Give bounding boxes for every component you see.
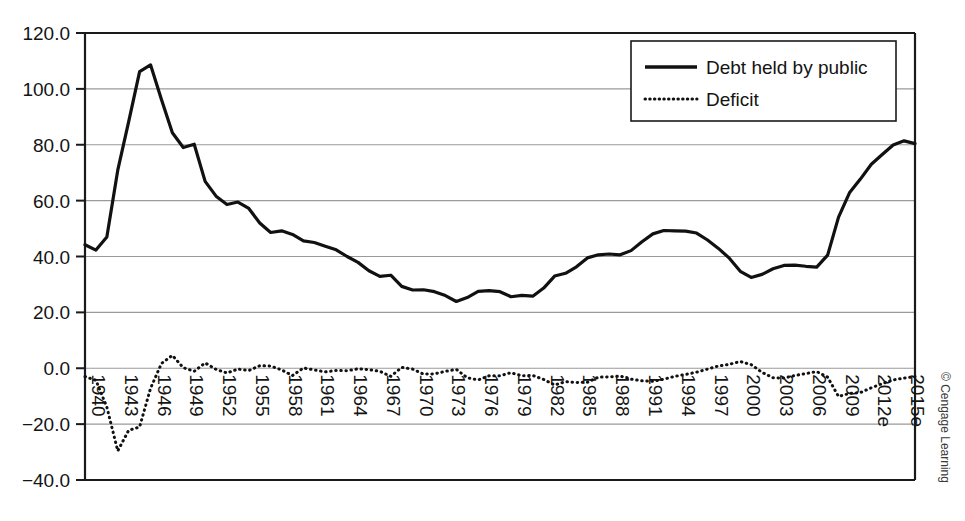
y-axis-ticks: −40.0−20.00.020.040.060.080.0100.0120.0	[22, 23, 85, 491]
x-tick-label: 1958	[285, 374, 306, 416]
x-axis-ticks: 1940194319461949195219551958196119641967…	[88, 374, 928, 427]
x-tick-label: 1940	[88, 374, 109, 416]
x-tick-label: 1943	[121, 374, 142, 416]
x-tick-label: 1997	[711, 374, 732, 416]
y-tick-label: 120.0	[22, 23, 70, 44]
x-tick-label: 2009	[842, 374, 863, 416]
legend-box	[631, 41, 896, 121]
x-tick-label: 1955	[252, 374, 273, 416]
x-tick-label: 1973	[448, 374, 469, 416]
y-tick-label: 20.0	[33, 302, 70, 323]
y-tick-label: 40.0	[33, 247, 70, 268]
x-tick-label: 1946	[154, 374, 175, 416]
y-tick-label: 100.0	[22, 79, 70, 100]
x-tick-label: 2015e	[907, 374, 928, 427]
x-tick-label: 1952	[219, 374, 240, 416]
x-tick-label: 1985	[579, 374, 600, 416]
x-tick-label: 2006	[809, 374, 830, 416]
copyright-credit: © Cengage Learning	[938, 372, 952, 483]
x-tick-label: 1967	[383, 374, 404, 416]
y-tick-label: 0.0	[44, 358, 70, 379]
x-tick-label: 1976	[481, 374, 502, 416]
y-tick-label: −40.0	[22, 470, 70, 491]
debt-deficit-line-chart: −40.0−20.00.020.040.060.080.0100.0120.0 …	[0, 0, 965, 521]
x-tick-label: 1982	[547, 374, 568, 416]
chart-container: −40.0−20.00.020.040.060.080.0100.0120.0 …	[0, 0, 965, 521]
y-tick-label: 60.0	[33, 191, 70, 212]
y-tick-label: −20.0	[22, 414, 70, 435]
x-tick-label: 1979	[514, 374, 535, 416]
legend-label-debt-held-by-public: Debt held by public	[706, 57, 868, 78]
x-tick-label: 1949	[186, 374, 207, 416]
chart-legend: Debt held by public Deficit	[631, 41, 896, 121]
y-tick-label: 80.0	[33, 135, 70, 156]
x-tick-label: 1970	[416, 374, 437, 416]
x-tick-label: 2000	[743, 374, 764, 416]
x-tick-label: 2003	[776, 374, 797, 416]
x-tick-label: 1994	[678, 374, 699, 417]
x-tick-label: 1964	[350, 374, 371, 417]
legend-label-deficit: Deficit	[706, 89, 760, 110]
x-tick-label: 1961	[317, 374, 338, 416]
x-tick-label: 1988	[612, 374, 633, 416]
